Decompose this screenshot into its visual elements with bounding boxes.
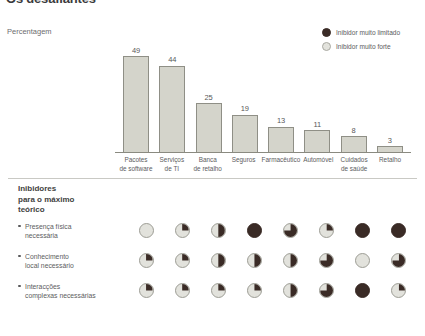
matrix-row-label-line: Presença física [25,222,128,231]
pie-indicator-icon [139,253,154,268]
matrix-cell [200,222,236,238]
pie-indicator-icon [391,253,406,268]
matrix-cell [200,252,236,268]
pie-indicator-icon [283,223,298,238]
pie-wedge [248,224,261,237]
matrix-cell [381,282,417,298]
bar-slot: 13 [263,44,299,152]
matrix-cell [345,252,381,268]
pie-indicator-icon [211,283,226,298]
x-axis-label: Cuidadosde saúde [336,156,372,173]
pie-indicator-icon [355,253,370,268]
pie-indicator-icon [283,283,298,298]
matrix-cell [164,222,200,238]
pie-wedge [284,284,297,297]
x-axis-label: Bancade retalho [190,156,226,173]
pie-wedge [176,224,189,237]
pie-indicator-icon [319,253,334,268]
x-axis-label: Serviçosde TI [154,156,190,173]
pie-wedge [392,284,405,297]
matrix-cell [309,222,345,238]
bar-slot: 3 [372,44,408,152]
pie-wedge [176,284,189,297]
pie-indicator-icon [175,223,190,238]
inhibitor-matrix: Presença físicanecessáriaConhecimentoloc… [18,222,417,312]
x-axis-label-line: Serviços [154,156,190,165]
matrix-cell [381,252,417,268]
bar-slot: 44 [154,44,190,152]
x-axis-label-line: Pacotes [118,156,154,165]
matrix-cell [345,222,381,238]
x-axis-label-line: Seguros [226,156,262,165]
pie-wedge [356,284,369,297]
page-title: Os desafiantes [6,0,96,6]
x-axis-label: Farmacêutico [262,156,301,173]
bar-series: 49442519131183 [118,44,408,152]
bar-slot: 8 [336,44,372,152]
pie-indicator-icon [283,253,298,268]
pie-wedge [320,224,333,237]
pie-indicator-icon [247,253,262,268]
legend-item-limited: Inibidor muito limitado [322,26,425,38]
pie-wedge [140,284,153,297]
x-axis-label-line: Farmacêutico [262,156,301,165]
pie-indicator-icon [175,253,190,268]
x-axis-label-line: de retalho [190,165,226,174]
bar-value-label: 44 [168,56,176,64]
bar [341,136,367,152]
pie-indicator-icon [247,283,262,298]
pie-indicator-icon [139,283,154,298]
x-axis-label: Automóvel [300,156,336,173]
matrix-cell [128,222,164,238]
matrix-row-label: Interacçõescomplexas necessárias [18,282,128,300]
bar [196,103,222,152]
bullet-icon [18,255,21,258]
pie-indicator-icon [391,223,406,238]
pie-wedge [248,284,261,297]
pie-indicator-icon [391,283,406,298]
matrix-row: Conhecimentolocal necessário [18,252,417,282]
x-axis-label-line: Retalho [372,156,408,165]
matrix-row: Presença físicanecessária [18,222,417,252]
pie-wedge [320,284,333,297]
dark-circle-icon [322,28,331,37]
matrix-cell [236,222,272,238]
bullet-icon [18,225,21,228]
pie-indicator-icon [175,283,190,298]
matrix-row-label: Presença físicanecessária [18,222,128,240]
pie-indicator-icon [319,223,334,238]
bar-value-label: 25 [204,94,212,102]
pie-indicator-icon [355,223,370,238]
matrix-cell [164,282,200,298]
bar-slot: 25 [191,44,227,152]
matrix-row: Interacçõescomplexas necessárias [18,282,417,312]
x-axis-label: Seguros [226,156,262,173]
bar [123,56,149,152]
bar [232,115,258,152]
matrix-heading-line: Inibidores [18,184,118,195]
bar-value-label: 13 [277,117,285,125]
matrix-cell [128,282,164,298]
bar [268,127,294,152]
matrix-row-label-line: complexas necessárias [25,291,128,300]
matrix-cell [200,282,236,298]
x-axis-label-line: de saúde [336,165,372,174]
pie-indicator-icon [355,283,370,298]
x-axis-label: Pacotesde software [118,156,154,173]
pie-wedge [212,284,225,297]
matrix-cell [309,282,345,298]
bar-slot: 49 [118,44,154,152]
pie-wedge [392,254,405,267]
x-axis-label-line: de software [118,165,154,174]
matrix-cells [128,252,417,268]
bar-slot: 19 [227,44,263,152]
matrix-cell [164,252,200,268]
matrix-cell [273,222,309,238]
matrix-cell [273,252,309,268]
matrix-row-label: Conhecimentolocal necessário [18,252,128,270]
pie-wedge [140,254,153,267]
pie-indicator-icon [139,223,154,238]
matrix-cell [273,282,309,298]
pie-indicator-icon [211,253,226,268]
matrix-cells [128,282,417,298]
